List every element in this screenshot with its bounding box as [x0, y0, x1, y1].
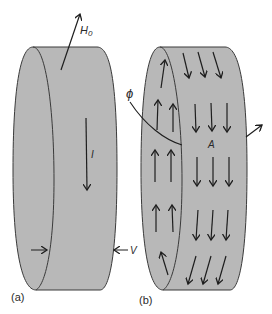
panel-a: H0 I V (a)	[11, 14, 138, 303]
panel-a-label: (a)	[11, 291, 24, 303]
diagram-canvas: H0 I V (a)	[0, 0, 272, 314]
cylinder-a-body	[13, 47, 117, 290]
area-a-label: A	[207, 139, 215, 150]
flux-phi-label: ϕ	[126, 86, 133, 101]
panel-b: ϕ A (b)	[126, 47, 262, 306]
outgoing-field-arrow	[246, 125, 262, 137]
thickness-v-label: V	[130, 245, 138, 256]
panel-b-label: (b)	[139, 294, 152, 306]
current-i-label: I	[91, 149, 94, 160]
cylinder-b-body	[141, 47, 247, 290]
field-h0-label: H0	[80, 24, 93, 38]
